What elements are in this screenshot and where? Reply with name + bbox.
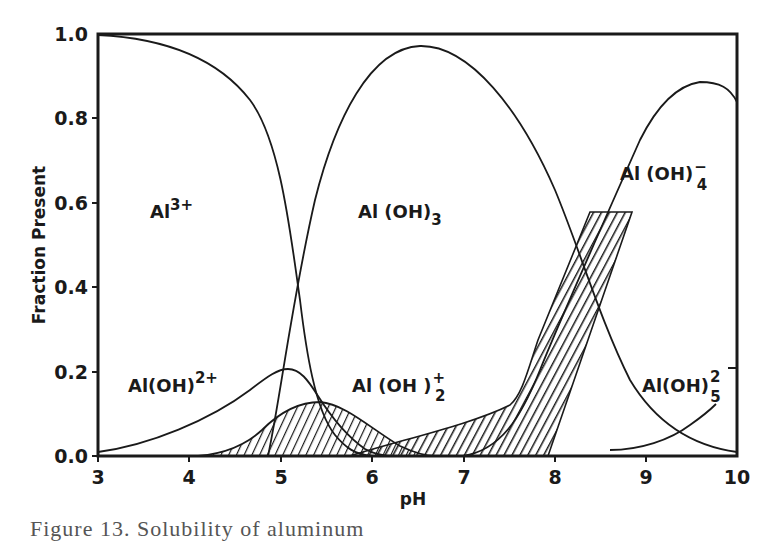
hatched-region-right <box>350 212 632 456</box>
x-tick-label: 10 <box>724 466 750 488</box>
y-tick-label: 0.8 <box>54 107 88 129</box>
x-axis: 3 4 5 6 7 8 9 10 pH <box>91 456 750 509</box>
label-aloh3: Al (OH)3 <box>358 201 442 229</box>
x-tick-label: 5 <box>274 466 287 488</box>
label-aloh-2plus: Al(OH)2+ <box>128 369 218 396</box>
y-tick-label: 0.4 <box>54 276 88 298</box>
y-tick-label: 0.2 <box>54 361 88 383</box>
x-tick-label: 3 <box>91 466 104 488</box>
x-tick-label: 4 <box>182 466 195 488</box>
label-aloh2-plus: Al (OH )+2 <box>352 369 445 405</box>
x-tick-label: 8 <box>548 466 561 488</box>
y-axis-title: Fraction Present <box>29 166 49 324</box>
label-aloh5-2minus: Al(OH)25 <box>642 368 721 406</box>
x-axis-title: pH <box>400 489 426 509</box>
label-aloh4-minus: Al (OH)−4 <box>620 158 707 194</box>
y-tick-label: 0.0 <box>54 445 88 467</box>
x-tick-label: 7 <box>457 466 470 488</box>
figure-caption: Figure 13. Solubility of aluminum <box>30 516 364 542</box>
y-axis: 0.0 0.2 0.4 0.6 0.8 1.0 Fraction Present <box>29 23 98 467</box>
x-tick-label: 9 <box>639 466 652 488</box>
y-tick-label: 0.6 <box>54 192 88 214</box>
y-tick-label: 1.0 <box>54 23 88 45</box>
label-al3plus: Al3+ <box>150 196 193 222</box>
x-tick-label: 6 <box>365 466 378 488</box>
